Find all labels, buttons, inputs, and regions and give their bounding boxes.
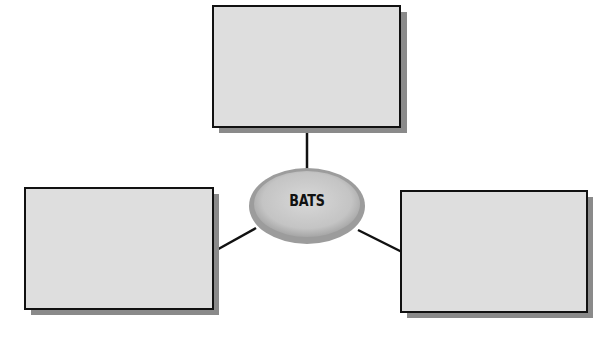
bats-web-diagram (0, 0, 610, 341)
right-box (401, 191, 587, 312)
center-label: BATS (259, 192, 356, 210)
left-box (25, 188, 213, 309)
connector-left (213, 228, 256, 252)
top-box (213, 6, 400, 127)
connector-right (358, 230, 402, 252)
